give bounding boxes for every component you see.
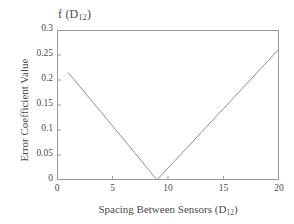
- x-axis-tick-marks: [57, 176, 279, 180]
- chart-title: f (D12): [58, 7, 91, 22]
- x-tick-label: 0: [37, 183, 77, 193]
- chart-title-subscript: 12: [78, 13, 86, 22]
- data-series-line: [68, 49, 279, 180]
- x-axis-label-subscript: 12: [226, 208, 234, 217]
- y-tick-label: 0: [7, 173, 53, 183]
- x-tick-label: 20: [259, 183, 294, 193]
- y-tick-label: 0.3: [7, 23, 53, 33]
- y-tick-label: 0.1: [7, 123, 53, 133]
- x-tick-label: 5: [93, 183, 133, 193]
- x-tick-label: 10: [148, 183, 188, 193]
- y-tick-label: 0.05: [7, 148, 53, 158]
- y-tick-label: 0.25: [7, 48, 53, 58]
- y-axis-tick-marks: [57, 30, 61, 180]
- x-axis-label: Spacing Between Sensors (D12): [57, 203, 279, 217]
- x-axis-label-base: Spacing Between Sensors (D: [98, 203, 226, 215]
- x-tick-label: 15: [204, 183, 244, 193]
- y-tick-label: 0.2: [7, 73, 53, 83]
- plot-canvas: [57, 30, 279, 180]
- chart-title-tail: ): [87, 7, 91, 21]
- y-tick-label: 0.15: [7, 98, 53, 108]
- chart-title-base: f (D: [58, 7, 78, 21]
- chart-figure: f (D12) Error Coefficient Value 00.050.1…: [0, 0, 294, 224]
- x-axis-label-tail: ): [234, 203, 238, 215]
